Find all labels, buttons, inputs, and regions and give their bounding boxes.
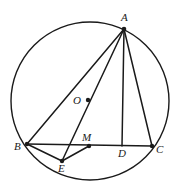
vertex-dot-C [150, 144, 154, 148]
vertex-dot-M [87, 144, 91, 148]
point-label-E: E [57, 162, 65, 174]
geometry-figure: A B C D E M O [0, 0, 177, 188]
point-label-A: A [120, 11, 128, 23]
point-label-C: C [156, 143, 164, 155]
vertex-dot-A [122, 27, 127, 32]
point-label-O: O [73, 94, 81, 106]
point-label-D: D [117, 147, 126, 159]
geometry-canvas: A B C D E M O [0, 0, 177, 188]
center-dot-O [86, 98, 90, 102]
vertex-dot-B [25, 142, 29, 146]
point-label-B: B [14, 140, 21, 152]
point-label-M: M [81, 131, 92, 143]
